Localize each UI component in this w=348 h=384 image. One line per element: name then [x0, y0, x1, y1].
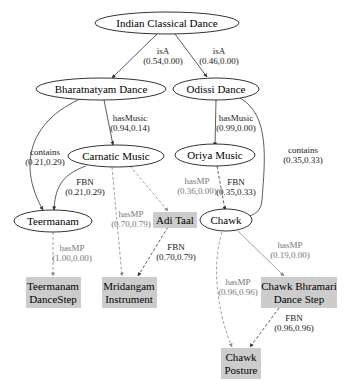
node-chawk-posture[interactable]: Chawk Posture [221, 348, 261, 379]
edge-label-relation: FBN [167, 242, 185, 252]
edge-label-score: (0.70,0.79) [156, 252, 196, 262]
node-bharatnatyam-dance[interactable]: Bharatnatyam Dance [36, 78, 166, 100]
node-label: Teermanam [27, 215, 79, 227]
edge-label-relation: isA [213, 46, 226, 56]
edge-label-score: (0.70,0.79) [111, 219, 151, 229]
node-carnatic-music[interactable]: Carnatic Music [68, 145, 164, 167]
edge-label-score: (0.21,0.29) [25, 157, 65, 167]
node-adi-taal[interactable]: Adi Taal [153, 212, 197, 228]
node-label-line1: Mridangam [103, 280, 155, 292]
ontology-graph: isA (0.54,0.00) isA (0.46,0.00) hasMusic… [0, 0, 348, 384]
edge-label-score: (0.35,0.33) [283, 155, 323, 165]
edge-label-relation: hasMusic [113, 113, 148, 123]
node-label: Oriya Music [187, 149, 242, 161]
edge-label-relation: hasMP [118, 209, 143, 219]
edge-label-score: (0.96,0.96) [274, 323, 314, 333]
edge-label-relation: contains [30, 147, 60, 157]
node-label-line2: DanceStep [29, 293, 77, 305]
edge-label-relation: isA [157, 46, 170, 56]
node-teermanam-dancestep[interactable]: Teermanam DanceStep [26, 277, 81, 308]
node-oriya-music[interactable]: Oriya Music [175, 144, 255, 166]
edge-label-score: (0.19,0.00) [270, 250, 310, 260]
node-chawk[interactable]: Chawk [200, 209, 252, 231]
node-label-line1: Teermanam [27, 280, 79, 292]
node-mridangam-instrument[interactable]: Mridangam Instrument [102, 277, 157, 308]
edge-hasmp-aditaal [130, 166, 168, 211]
edge-label-score: (0.99,0.00) [216, 123, 256, 133]
edge-label-relation: FBN [76, 177, 94, 187]
edge-label-score: (0.94,0.14) [110, 123, 150, 133]
node-teermanam[interactable]: Teermanam [14, 210, 92, 232]
node-odissi-dance[interactable]: Odissi Dance [173, 78, 259, 100]
edge-label-score: (0.96,0.96) [218, 287, 258, 297]
edge-label-score: (0.35,0.33) [216, 187, 256, 197]
node-chawk-bhramari-dance-step[interactable]: Chawk Bhramari Dance Step [261, 277, 337, 308]
edge-label-score: (0.46,0.00) [199, 56, 239, 66]
edge-label-relation: hasMP [59, 243, 84, 253]
node-label: Chawk [210, 214, 242, 226]
node-label-line2: Instrument [105, 293, 153, 305]
node-indian-classical-dance[interactable]: Indian Classical Dance [95, 12, 239, 34]
edge-label-relation: FBN [285, 313, 303, 323]
edge-label-score: (1.00,0.00) [52, 253, 92, 263]
edge-label-relation: FBN [227, 177, 245, 187]
node-label: Bharatnatyam Dance [55, 83, 148, 95]
edge-label-relation: hasMP [277, 240, 302, 250]
node-label-line1: Chawk Bhramari [261, 280, 336, 292]
node-label: Adi Taal [156, 214, 194, 226]
edge-label-score: (0.54,0.00) [143, 56, 183, 66]
node-label-line2: Dance Step [274, 293, 325, 305]
node-label: Carnatic Music [82, 150, 150, 162]
edge-label-score: (0.36,0.00) [177, 186, 217, 196]
node-label-line1: Chawk [225, 351, 257, 363]
edge-label-relation: hasMusic [219, 113, 254, 123]
edge-label-relation: hasMP [184, 176, 209, 186]
node-label: Indian Classical Dance [116, 17, 218, 29]
edge-label-relation: hasMP [225, 277, 250, 287]
edge-label-score: (0.21,0.29) [65, 187, 105, 197]
node-label: Odissi Dance [187, 83, 246, 95]
node-label-line2: Posture [225, 364, 258, 376]
edge-label-relation: contains [288, 145, 318, 155]
